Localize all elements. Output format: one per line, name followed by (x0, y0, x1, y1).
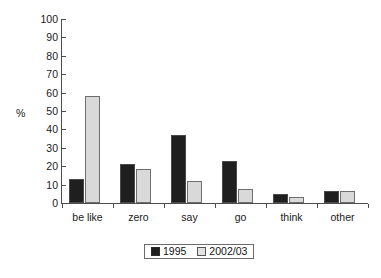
bar-series-1995 (324, 191, 339, 203)
y-axis-tick-label-text: 30 (32, 143, 58, 153)
y-axis-title: % (16, 108, 25, 118)
y-axis-tick-label-text: 60 (32, 88, 58, 98)
chart-legend: 1995 2002/03 (144, 244, 254, 259)
y-axis-tick-label-text: 70 (32, 69, 58, 79)
bar-group (69, 19, 100, 203)
bar-series-1995 (69, 179, 84, 203)
y-axis-tick-label: 90 (28, 32, 58, 42)
y-axis-tick-label: 60 (28, 88, 58, 98)
y-axis-tick-label: 80 (28, 51, 58, 61)
bar-series-2002-03 (289, 197, 304, 203)
x-axis-tick-mark (317, 204, 318, 208)
legend-label-2002-03: 2002/03 (209, 246, 247, 257)
bar-group (324, 19, 355, 203)
x-axis-tick-mark (164, 204, 165, 208)
y-axis-tick-label: 40 (28, 124, 58, 134)
bar-chart-figure: % 1009080706050403020100 be likezerosayg… (0, 0, 381, 278)
y-axis-tick-label: 50 (28, 106, 58, 116)
x-axis-tick-mark (368, 204, 369, 208)
x-axis-category-label: zero (113, 211, 164, 223)
legend-entry-1995: 1995 (151, 246, 186, 257)
bar-group (120, 19, 151, 203)
legend-entry-2002-03: 2002/03 (197, 246, 247, 257)
legend-swatch-icon-2002-03 (197, 247, 206, 256)
x-axis-category-label: be like (62, 211, 113, 223)
x-axis-category-label: think (266, 211, 317, 223)
x-axis-category-label: go (215, 211, 266, 223)
bar-series-2002-03 (85, 96, 100, 203)
y-axis-tick-label-text: 90 (32, 32, 58, 42)
y-axis-tick-label: 100 (28, 14, 58, 24)
y-axis-tick-label-text: 80 (32, 51, 58, 61)
x-axis-tick-mark (266, 204, 267, 208)
plot-area (62, 19, 368, 203)
bar-group (273, 19, 304, 203)
y-axis-tick-label: 70 (28, 69, 58, 79)
x-axis-category-label: other (317, 211, 368, 223)
bar-group (222, 19, 253, 203)
legend-label-1995: 1995 (163, 246, 186, 257)
y-axis-tick-label: 10 (28, 180, 58, 190)
bar-series-1995 (222, 161, 237, 203)
x-axis-tick-mark (62, 204, 63, 208)
bar-series-2002-03 (340, 191, 355, 203)
y-axis-tick-label: 20 (28, 161, 58, 171)
bar-series-2002-03 (238, 189, 253, 203)
x-axis-tick-mark (113, 204, 114, 208)
y-axis-tick-label: 0 (28, 198, 58, 208)
y-axis-tick-label-text: 100 (32, 14, 58, 24)
x-axis-tick-mark (215, 204, 216, 208)
y-axis-tick-label-text: 50 (32, 106, 58, 116)
y-axis-tick-label-text: 40 (32, 124, 58, 134)
y-axis-tick-label-text: 10 (32, 180, 58, 190)
bar-series-2002-03 (187, 181, 202, 203)
bar-series-1995 (273, 194, 288, 203)
legend-swatch-icon-1995 (151, 247, 160, 256)
y-axis-tick-label: 30 (28, 143, 58, 153)
y-axis-tick-label-text: 20 (32, 161, 58, 171)
bar-series-2002-03 (136, 169, 151, 203)
bar-series-1995 (120, 164, 135, 203)
y-axis-tick-label-text: 0 (32, 198, 58, 208)
bar-series-1995 (171, 135, 186, 203)
bar-group (171, 19, 202, 203)
x-axis-category-label: say (164, 211, 215, 223)
